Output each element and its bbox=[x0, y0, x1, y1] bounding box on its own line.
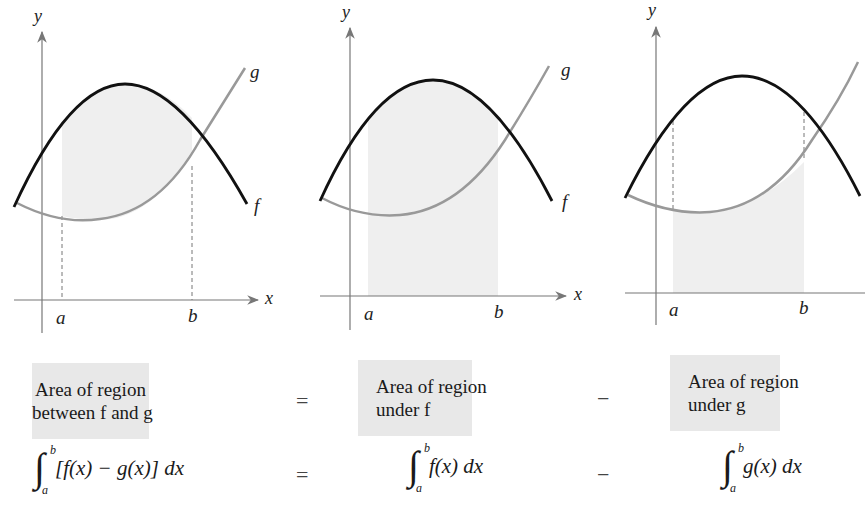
box-area-between: Area of region between f and g bbox=[32, 363, 149, 439]
f-label: f bbox=[254, 195, 262, 216]
a-label: a bbox=[364, 303, 374, 324]
box-line: between f and g bbox=[32, 401, 149, 424]
integral-sign: ∫ba bbox=[722, 446, 733, 486]
lower-limit: a bbox=[416, 482, 422, 494]
equals-operator: = bbox=[296, 462, 308, 488]
box-line: under g bbox=[688, 393, 780, 416]
upper-limit: b bbox=[50, 444, 56, 456]
g-label: g bbox=[561, 59, 571, 80]
formula-between: ∫ba [f(x) − g(x)] dx bbox=[34, 448, 184, 488]
formula-under-g: ∫ba g(x) dx bbox=[722, 446, 802, 486]
y-axis-label: y bbox=[646, 0, 656, 20]
g-label: g bbox=[250, 61, 260, 82]
upper-limit: b bbox=[424, 442, 430, 454]
g-curve bbox=[628, 62, 858, 212]
lower-limit: a bbox=[730, 482, 736, 494]
shaded-region-under-g bbox=[673, 162, 804, 293]
minus-operator: − bbox=[597, 386, 609, 412]
lower-limit: a bbox=[42, 484, 48, 496]
box-area-under-g: Area of region under g bbox=[670, 355, 780, 431]
panel-between-f-and-g: y x g f a b bbox=[14, 6, 273, 333]
minus-operator: − bbox=[597, 462, 609, 488]
a-label: a bbox=[56, 307, 66, 328]
upper-limit: b bbox=[738, 442, 744, 454]
b-label: b bbox=[188, 305, 198, 326]
integrand: [f(x) − g(x)] dx bbox=[55, 456, 184, 481]
box-line: Area of region bbox=[32, 378, 149, 401]
y-axis-label: y bbox=[32, 6, 42, 26]
integral-sign: ∫ba bbox=[408, 446, 419, 486]
integrand: g(x) dx bbox=[743, 454, 802, 479]
equals-operator: = bbox=[296, 388, 308, 414]
shaded-region-under-f bbox=[368, 80, 498, 296]
box-line: Area of region bbox=[376, 375, 472, 398]
panel-under-g: y a b bbox=[625, 0, 865, 325]
panel-under-f: y x g f a b bbox=[320, 2, 582, 330]
y-axis-label: y bbox=[340, 2, 350, 22]
box-line: under f bbox=[376, 398, 472, 421]
integral-sign: ∫ba bbox=[34, 448, 45, 488]
x-axis-label: x bbox=[573, 284, 582, 304]
formula-under-f: ∫ba f(x) dx bbox=[408, 446, 483, 486]
f-label: f bbox=[562, 191, 570, 212]
area-between-curves-figure: y x g f a b y x g f a b y a b bbox=[0, 0, 865, 340]
b-label: b bbox=[494, 301, 504, 322]
x-axis-label: x bbox=[264, 288, 273, 308]
b-label: b bbox=[799, 297, 809, 318]
a-label: a bbox=[669, 299, 679, 320]
box-area-under-f: Area of region under f bbox=[358, 360, 472, 436]
integrand: f(x) dx bbox=[429, 454, 483, 479]
box-line: Area of region bbox=[688, 370, 780, 393]
f-curve bbox=[625, 76, 860, 198]
